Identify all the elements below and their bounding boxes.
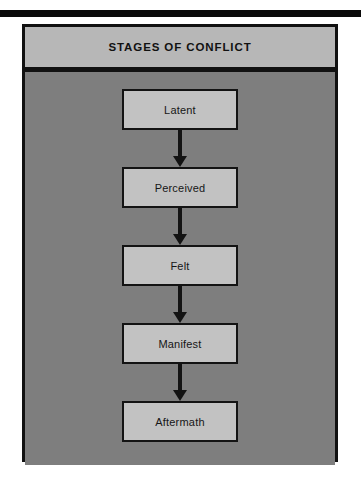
arrow-head bbox=[173, 312, 187, 323]
arrow-down-icon bbox=[172, 208, 188, 245]
arrow-shaft bbox=[178, 130, 182, 157]
arrow-down-icon bbox=[172, 130, 188, 167]
arrow-shaft bbox=[178, 286, 182, 313]
arrow-shaft bbox=[178, 208, 182, 235]
arrow-shaft bbox=[178, 364, 182, 391]
flowchart-body: Latent Perceived Felt Manifest A bbox=[25, 72, 335, 465]
figure-title-band: STAGES OF CONFLICT bbox=[25, 27, 335, 72]
flow-node-manifest: Manifest bbox=[122, 323, 238, 364]
flow-node-perceived: Perceived bbox=[122, 167, 238, 208]
flow-node-label: Felt bbox=[170, 260, 189, 272]
flow-node-felt: Felt bbox=[122, 245, 238, 286]
top-black-rule bbox=[0, 10, 361, 17]
arrow-head bbox=[173, 234, 187, 245]
arrow-down-icon bbox=[172, 286, 188, 323]
flow-node-label: Perceived bbox=[155, 182, 206, 194]
arrow-down-icon bbox=[172, 364, 188, 401]
flow-node-label: Manifest bbox=[158, 338, 201, 350]
figure-frame: STAGES OF CONFLICT Latent Perceived Felt… bbox=[22, 24, 338, 462]
flow-node-aftermath: Aftermath bbox=[122, 401, 238, 442]
flow-node-label: Aftermath bbox=[155, 416, 205, 428]
arrow-head bbox=[173, 390, 187, 401]
arrow-head bbox=[173, 156, 187, 167]
flow-node-latent: Latent bbox=[122, 89, 238, 130]
flow-node-label: Latent bbox=[164, 104, 196, 116]
page-title: STAGES OF CONFLICT bbox=[108, 41, 251, 53]
